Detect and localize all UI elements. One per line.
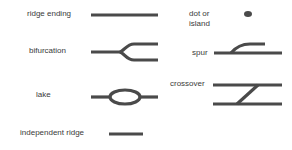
dot-shape [244, 11, 252, 17]
minutiae-shapes [0, 0, 292, 150]
spur-shape [214, 44, 282, 53]
crossover-shape [213, 85, 282, 104]
lake-shape [91, 90, 158, 104]
bifurcation-shape [91, 44, 158, 60]
